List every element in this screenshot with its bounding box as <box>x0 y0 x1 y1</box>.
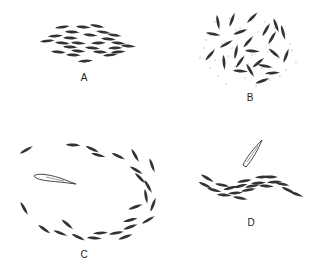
predator-fish-d <box>243 140 262 167</box>
panel-label-b: B <box>247 92 254 103</box>
panel-b-feeding <box>199 11 296 86</box>
fish-schooling-diagram <box>0 0 312 270</box>
panel-label-a: A <box>81 72 88 83</box>
panel-label-c: C <box>80 249 87 260</box>
panel-d-line <box>198 140 304 201</box>
panel-c-ring <box>19 143 157 241</box>
panel-label-d: D <box>247 217 254 228</box>
panel-a-school <box>40 23 136 63</box>
